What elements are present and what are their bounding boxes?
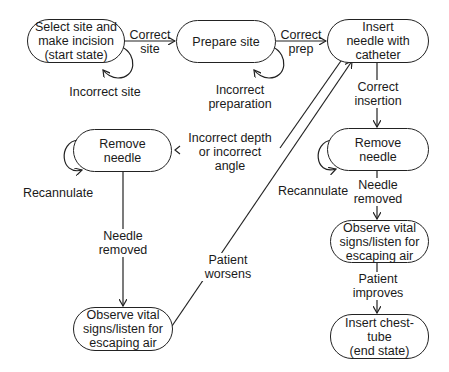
label-incorrect-site: Incorrect site (55, 85, 155, 99)
state-select-site: Select site and make incision (start sta… (27, 19, 125, 63)
state-observe-right: Observe vital signs/listen for escaping … (330, 220, 429, 263)
state-insert-chest-tube: Insert chest- tube (end state) (330, 314, 429, 359)
label-recannulate-right: Recannulate (273, 184, 353, 198)
state-insert-needle: Insert needle with catheter (327, 19, 429, 63)
state-label: Insert chest- tube (end state) (345, 316, 414, 358)
state-remove-needle-right: Remove needle (327, 128, 429, 171)
state-label: Observe vital signs/listen for escaping … (83, 308, 163, 350)
state-observe-left: Observe vital signs/listen for escaping … (73, 307, 173, 351)
label-needle-removed-right: Needle removed (352, 178, 404, 206)
label-needle-removed-left: Needle removed (96, 229, 150, 257)
state-label: Remove needle (99, 137, 146, 165)
label-correct-site: Correct site (126, 28, 174, 56)
label-correct-prep: Correct prep (276, 28, 326, 56)
state-label: Observe vital signs/listen for escaping … (340, 221, 420, 263)
label-correct-insertion: Correct insertion (350, 80, 406, 108)
label-incorrect-depth: Incorrect depth or incorrect angle (180, 131, 280, 173)
label-patient-worsens: Patient worsens (196, 253, 260, 281)
state-prepare-site: Prepare site (176, 20, 276, 63)
label-incorrect-preparation: Incorrect preparation (200, 83, 280, 111)
state-label: Remove needle (355, 136, 402, 164)
state-label: Insert needle with catheter (346, 20, 409, 62)
state-label: Select site and make incision (start sta… (35, 20, 117, 62)
state-label: Prepare site (192, 35, 259, 49)
state-remove-needle-left: Remove needle (73, 129, 172, 172)
label-patient-improves: Patient improves (348, 272, 408, 300)
label-recannulate-left: Recannulate (18, 186, 98, 200)
